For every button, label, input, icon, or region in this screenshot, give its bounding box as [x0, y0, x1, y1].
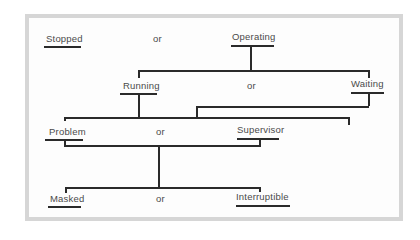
underline-supervisor	[237, 138, 279, 140]
connector-level2-bar	[64, 117, 350, 119]
connector-level3-bar	[64, 145, 261, 147]
underline-operating	[231, 45, 274, 47]
label-or-2: or	[247, 80, 256, 91]
label-problem: Problem	[49, 126, 86, 137]
label-supervisor: Supervisor	[237, 124, 284, 135]
connector-level3-stem	[158, 145, 160, 188]
label-or-4: or	[156, 193, 165, 204]
label-running: Running	[123, 80, 160, 91]
label-masked: Masked	[50, 193, 84, 204]
connector-to-waiting	[368, 70, 370, 78]
connector-to-running	[138, 70, 140, 78]
underline-masked	[48, 206, 81, 208]
connector-level4-bar	[65, 187, 260, 189]
label-or-3: or	[156, 126, 165, 137]
label-operating: Operating	[232, 31, 276, 42]
connector-waiting-bar	[196, 106, 369, 108]
connector-operating-bar	[138, 70, 369, 72]
label-waiting: Waiting	[351, 78, 384, 89]
label-interruptible: Interruptible	[236, 191, 289, 202]
connector-running-down	[138, 93, 140, 118]
label-stopped: Stopped	[46, 33, 83, 44]
label-or-1: or	[153, 33, 162, 44]
connector-to-problem	[64, 117, 66, 121]
underline-interruptible	[236, 205, 290, 207]
underline-stopped	[44, 46, 81, 48]
connector-operating-down	[250, 45, 252, 70]
connector-to-supervisor	[348, 117, 350, 125]
connector-waiting-down	[368, 92, 370, 106]
